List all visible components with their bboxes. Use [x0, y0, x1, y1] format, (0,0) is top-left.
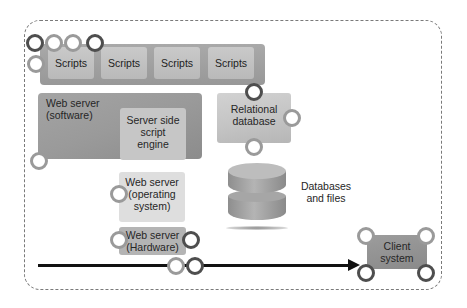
connector-ring-icon [110, 185, 128, 203]
database-cylinder-top [228, 163, 286, 179]
connector-ring-icon [86, 34, 104, 52]
script-tile: Scripts [208, 47, 254, 79]
connector-ring-icon [417, 264, 435, 282]
database-cylinder-shadow [226, 226, 288, 230]
databases-files-label: Databases and files [296, 180, 356, 204]
connector-ring-icon [64, 34, 82, 52]
connector-ring-icon [245, 138, 263, 156]
web-server-software-label: Web server (software) [46, 97, 100, 121]
connector-ring-icon [26, 34, 44, 52]
connector-ring-icon [110, 231, 128, 249]
connector-ring-icon [357, 264, 375, 282]
relational-database-label: Relational database [217, 103, 291, 127]
connector-ring-icon [357, 227, 375, 245]
script-engine-label: Server side script engine [120, 114, 186, 150]
web-server-os-label: Web server (operating system) [119, 176, 185, 212]
script-tile: Scripts [101, 47, 147, 79]
connector-ring-icon [27, 55, 45, 73]
connector-ring-icon [167, 257, 185, 275]
connector-ring-icon [245, 83, 263, 101]
web-server-hardware-label: Web server (Hardware) [119, 229, 186, 253]
connector-ring-icon [182, 231, 200, 249]
connector-ring-icon [283, 109, 301, 127]
connector-ring-icon [30, 152, 48, 170]
connector-ring-icon [45, 34, 63, 52]
connector-ring-icon [417, 227, 435, 245]
script-tile: Scripts [154, 47, 200, 79]
connector-ring-icon [186, 257, 204, 275]
client-system-label: Client system [367, 240, 427, 264]
